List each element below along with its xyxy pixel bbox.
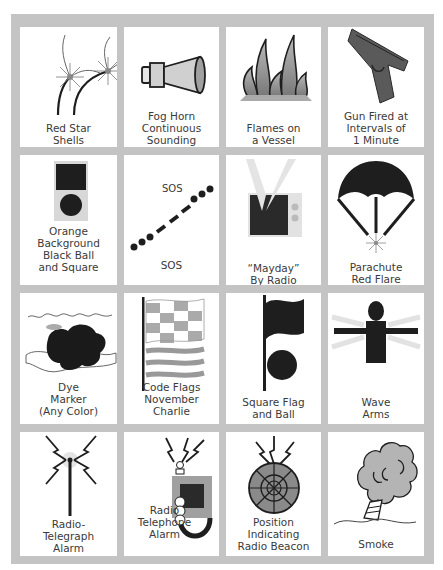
signal-label: Wave Arms — [328, 396, 424, 420]
signal-label: SOS — [124, 259, 219, 271]
signal-card-smoke: Smoke — [328, 432, 424, 556]
signal-label: Fog Horn Continuous Sounding — [124, 110, 219, 146]
signal-card-radio-telegraph: Radio- Telegraph Alarm — [20, 432, 117, 556]
signal-card-code-flags: Code Flags November Charlie — [124, 293, 219, 424]
signal-card-sos: SOS SOS — [124, 155, 219, 285]
signal-label: Red Star Shells — [20, 122, 117, 146]
signal-card-square-flag-ball: Square Flag and Ball — [226, 293, 321, 424]
signal-label: Radio Telephone Alarm — [124, 504, 219, 540]
signal-card-red-star-shells: Red Star Shells — [20, 27, 117, 147]
signal-card-gun-fired: Gun Fired at Intervals of 1 Minute — [328, 27, 424, 147]
signal-card-fog-horn: Fog Horn Continuous Sounding — [124, 27, 219, 147]
signal-card-dye-marker: Dye Marker (Any Color) — [20, 293, 117, 424]
signal-card-parachute-flare: Parachute Red Flare — [328, 155, 424, 285]
signal-label: Code Flags November Charlie — [124, 381, 219, 417]
signal-label: “Mayday” By Radio — [226, 262, 321, 285]
signal-label: Dye Marker (Any Color) — [20, 381, 117, 417]
signal-label: Parachute Red Flare — [328, 261, 424, 285]
signal-card-mayday: “Mayday” By Radio — [226, 155, 321, 285]
signal-label: Flames on a Vessel — [226, 122, 321, 146]
signal-card-flames: Flames on a Vessel — [226, 27, 321, 147]
signal-card-radio-telephone: Radio Telephone Alarm — [124, 432, 219, 556]
signal-card-wave-arms: Wave Arms — [328, 293, 424, 424]
signal-label: Square Flag and Ball — [226, 396, 321, 420]
signal-label: Radio- Telegraph Alarm — [20, 518, 117, 554]
sos-icon-text: SOS — [162, 183, 183, 194]
signal-label: Gun Fired at Intervals of 1 Minute — [328, 110, 424, 146]
signal-card-orange-background: Orange Background Black Ball and Square — [20, 155, 117, 285]
signal-card-radio-beacon: Position Indicating Radio Beacon — [226, 432, 321, 556]
signal-label: Position Indicating Radio Beacon — [226, 516, 321, 552]
signal-label: Smoke — [328, 538, 424, 550]
signal-label: Orange Background Black Ball and Square — [20, 225, 117, 273]
